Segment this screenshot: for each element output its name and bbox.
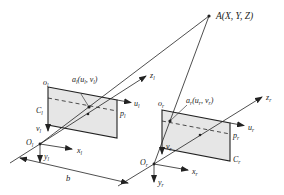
label-p-left: pl (119, 109, 126, 119)
right-image-plane (162, 110, 230, 161)
label-b: b (66, 173, 70, 183)
baseline-b-arrow (20, 158, 128, 183)
label-z-right: zr (265, 93, 272, 103)
point-A (207, 14, 210, 17)
label-y-left: yl (43, 152, 50, 162)
right-u-axis (230, 123, 244, 126)
label-C-right: Cr (233, 155, 241, 165)
label-o-right: or (158, 99, 165, 109)
label-C-left: Cl (36, 106, 43, 116)
label-O-left: Ol (26, 138, 34, 148)
label-x-left: xl (76, 146, 83, 156)
point-left-center (87, 113, 90, 116)
label-x-right: xr (191, 167, 199, 177)
right-baseline-ext (118, 164, 154, 186)
left-baseline-ext (10, 144, 40, 163)
label-z-left: zl (149, 71, 155, 81)
label-v-left: vl (36, 124, 42, 134)
label-A: A(X, Y, Z) (215, 11, 253, 22)
left-u-axis (117, 100, 131, 103)
label-a-right: ar(ur, vr) (186, 96, 214, 106)
label-u-left: ul (134, 99, 140, 109)
label-a-left: al(ul, vl) (72, 75, 98, 85)
label-u-right: ur (248, 123, 255, 133)
point-O-right (153, 163, 156, 166)
left-x-axis (40, 144, 72, 149)
label-o-left: ol (43, 78, 49, 88)
point-O-left (39, 143, 42, 146)
label-y-right: yr (157, 178, 165, 188)
label-O-right: Or (140, 158, 149, 168)
point-right-center (199, 134, 202, 137)
right-x-axis (154, 164, 188, 170)
stereo-vision-diagram: A(X, Y, Z) ol al(ul, vl) zl ul Cl pl vl … (0, 0, 284, 195)
label-p-right: pr (232, 131, 240, 141)
